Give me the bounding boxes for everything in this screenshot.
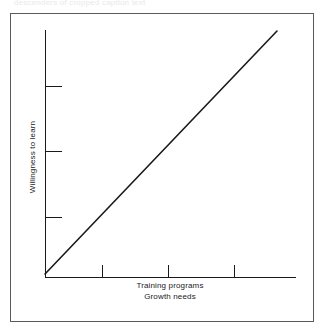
y-axis-ticks (46, 87, 62, 218)
x-axis-label: Training programs Growth needs (100, 281, 240, 302)
x-axis-label-line-1: Training programs (100, 281, 240, 292)
x-axis-label-line-2: Growth needs (100, 292, 240, 303)
data-line-willingness-to-learn (45, 31, 277, 274)
y-axis-label: Willingness to learn (28, 77, 37, 237)
x-axis-ticks (103, 265, 235, 277)
figure-root: descenders of cropped caption text (0, 0, 328, 335)
